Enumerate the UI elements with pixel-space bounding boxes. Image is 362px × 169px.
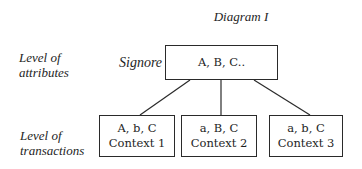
level-attributes-label: Level of attributes xyxy=(19,50,69,80)
diagram-title: Diagram I xyxy=(196,9,286,25)
context-1-label: Context 1 xyxy=(109,136,166,151)
context-node-1: A, b, C Context 1 xyxy=(99,115,175,157)
context-node-2: a, B, C Context 2 xyxy=(181,115,257,157)
level-transactions-line-2: transactions xyxy=(20,143,84,158)
connector-line-3 xyxy=(254,80,310,115)
root-node-content: A, B, C.. xyxy=(198,55,245,70)
connector-line-1 xyxy=(140,80,190,115)
level-attributes-line-1: Level of xyxy=(19,50,69,65)
level-transactions-line-1: Level of xyxy=(20,128,84,143)
context-2-attrs: a, B, C xyxy=(200,121,239,136)
context-1-attrs: A, b, C xyxy=(117,121,156,136)
context-3-label: Context 3 xyxy=(278,136,335,151)
root-node-label: Signore xyxy=(119,55,162,71)
context-2-label: Context 2 xyxy=(191,136,248,151)
root-node-box: A, B, C.. xyxy=(165,45,278,80)
level-transactions-label: Level of transactions xyxy=(20,128,84,158)
context-node-3: a, b, C Context 3 xyxy=(269,115,343,157)
level-attributes-line-2: attributes xyxy=(19,65,69,80)
context-3-attrs: a, b, C xyxy=(287,121,325,136)
